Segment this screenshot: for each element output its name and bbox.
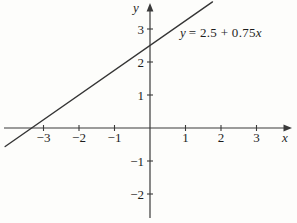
- y-tick-label: 3: [138, 22, 145, 37]
- y-tick-label: 1: [138, 88, 145, 103]
- x-tick-label: 2: [218, 130, 225, 145]
- line-equation-label: y= 2.5 + 0.75x: [180, 26, 262, 39]
- y-axis-label: y: [133, 1, 139, 14]
- y-tick-label: 2: [138, 55, 145, 70]
- figure-plot: −3−2−1123321−1−2 y x y= 2.5 + 0.75x: [0, 0, 297, 223]
- y-tick-label: −2: [130, 187, 144, 202]
- x-tick-label: −2: [72, 130, 86, 145]
- regression-line: [5, 2, 212, 147]
- equation-body: = 2.5 + 0.75: [189, 25, 256, 40]
- equation-var-x: x: [256, 25, 262, 40]
- equation-var-y: y: [180, 25, 186, 40]
- x-tick-label: 1: [182, 130, 189, 145]
- x-tick-label: −3: [37, 130, 51, 145]
- y-tick-label: −1: [130, 154, 144, 169]
- x-tick-label: −1: [108, 130, 122, 145]
- y-axis-arrow-icon: [147, 3, 154, 12]
- x-tick-label: 3: [253, 130, 260, 145]
- x-axis-label: x: [282, 131, 288, 144]
